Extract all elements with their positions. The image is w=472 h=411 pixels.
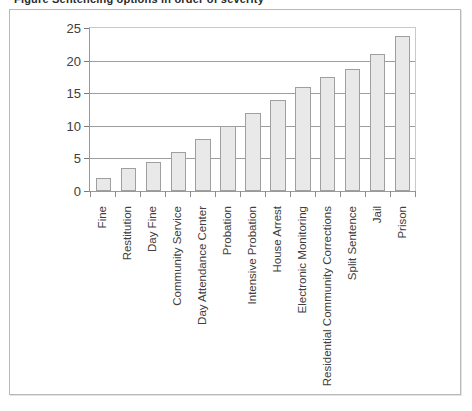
bar-slot <box>315 28 340 191</box>
y-tick-label: 5 <box>74 152 81 165</box>
x-tick-mark <box>90 191 91 197</box>
x-tick-mark <box>265 191 266 197</box>
x-tick-mark <box>290 191 291 197</box>
x-axis-label: Restitution <box>122 206 134 260</box>
bar <box>245 113 260 191</box>
y-tick-label: 15 <box>67 87 81 100</box>
y-tick-label: 10 <box>67 119 81 132</box>
chart-canvas: 0510152025 FineRestitutionDay FineCommun… <box>10 10 462 396</box>
x-tick-mark <box>390 191 391 197</box>
figure-caption: Figure Sentencing options in order of se… <box>0 0 472 5</box>
y-tick-label: 0 <box>74 185 81 198</box>
plot-area: 0510152025 <box>89 27 416 192</box>
x-label-slot: Day Fine <box>140 198 165 383</box>
x-axis-label: Fine <box>97 206 109 228</box>
x-axis-label: Residential Community Corrections <box>322 206 334 386</box>
x-tick-mark <box>315 191 316 197</box>
x-label-slot: Fine <box>90 198 115 383</box>
bar-slot <box>216 28 241 191</box>
y-tick-label: 25 <box>67 22 81 35</box>
y-tick-label: 20 <box>67 54 81 67</box>
x-axis-label: Jail <box>372 206 384 223</box>
bar <box>395 36 410 191</box>
figure-frame: 0510152025 FineRestitutionDay FineCommun… <box>9 9 461 395</box>
x-label-slot: Residential Community Corrections <box>315 198 340 383</box>
x-axis-label: Day Attendance Center <box>197 206 209 325</box>
x-label-slot: Intensive Probation <box>240 198 265 383</box>
bar-slot <box>265 28 290 191</box>
y-tick-mark <box>84 191 89 192</box>
x-tick-mark <box>190 191 191 197</box>
x-tick-mark <box>215 191 216 197</box>
bar-slot <box>116 28 141 191</box>
bar-slot <box>91 28 116 191</box>
bar <box>121 168 136 191</box>
bar <box>146 162 161 191</box>
x-axis-label: House Arrest <box>272 206 284 272</box>
x-label-slot: Prison <box>390 198 415 383</box>
x-axis-label: Electronic Monitoring <box>297 206 309 313</box>
x-tick-mark <box>415 191 416 197</box>
x-axis-label: Prison <box>397 206 409 239</box>
y-tick-mark <box>84 158 89 159</box>
x-tick-mark <box>165 191 166 197</box>
x-axis-label: Probation <box>222 206 234 255</box>
x-axis-labels: FineRestitutionDay FineCommunity Service… <box>90 198 415 383</box>
x-tick-mark <box>140 191 141 197</box>
x-label-slot: Restitution <box>115 198 140 383</box>
bar <box>370 54 385 191</box>
x-axis-label: Community Service <box>172 206 184 306</box>
y-tick-mark <box>84 61 89 62</box>
bar-slot <box>191 28 216 191</box>
bar-slot <box>365 28 390 191</box>
bar-series <box>91 28 415 191</box>
y-tick-mark <box>84 126 89 127</box>
x-axis-label: Day Fine <box>147 206 159 252</box>
bar-slot <box>340 28 365 191</box>
bar <box>96 178 111 191</box>
bar <box>195 139 210 191</box>
x-label-slot: Split Sentence <box>340 198 365 383</box>
x-label-slot: Community Service <box>165 198 190 383</box>
bar <box>270 100 285 191</box>
bar-slot <box>241 28 266 191</box>
bar <box>171 152 186 191</box>
bar <box>295 87 310 191</box>
y-tick-mark <box>84 28 89 29</box>
x-label-slot: Jail <box>365 198 390 383</box>
bar-slot <box>390 28 415 191</box>
bar <box>220 126 235 191</box>
x-tick-mark <box>340 191 341 197</box>
bar <box>345 69 360 191</box>
x-label-slot: Day Attendance Center <box>190 198 215 383</box>
x-tick-mark <box>115 191 116 197</box>
x-label-slot: House Arrest <box>265 198 290 383</box>
bar-slot <box>141 28 166 191</box>
x-tick-mark <box>240 191 241 197</box>
y-tick-mark <box>84 93 89 94</box>
bar-slot <box>166 28 191 191</box>
x-axis-label: Intensive Probation <box>247 206 259 304</box>
bar <box>320 77 335 191</box>
x-axis-label: Split Sentence <box>347 206 359 280</box>
x-tick-mark <box>365 191 366 197</box>
x-label-slot: Probation <box>215 198 240 383</box>
x-label-slot: Electronic Monitoring <box>290 198 315 383</box>
bar-slot <box>290 28 315 191</box>
